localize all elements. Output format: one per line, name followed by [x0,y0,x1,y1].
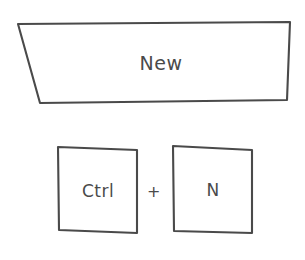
diagram-canvas: New Ctrl + N [0,0,305,260]
sketch-diagram: New Ctrl + N [0,0,305,260]
shortcut-separator-plus: + [147,182,161,201]
key-ctrl[interactable]: Ctrl [58,147,137,233]
menu-item-new-label: New [140,52,183,74]
menu-item-new[interactable]: New [18,22,290,103]
key-n[interactable]: N [173,146,252,233]
key-n-label: N [206,180,219,200]
key-ctrl-label: Ctrl [82,181,114,201]
